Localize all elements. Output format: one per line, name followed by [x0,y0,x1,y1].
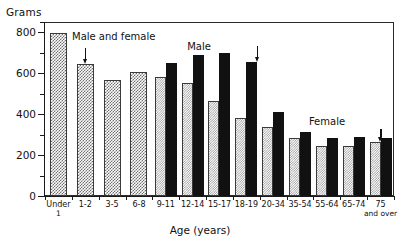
bar-female-55-64 [316,146,327,196]
x-axis-title: Age (years) [0,224,400,236]
x-tick-label-20-34: 20-34 [262,200,285,209]
annotation-label-male-and-female: Male and female [72,31,155,42]
y-tick-label-200: 200 [16,149,36,161]
y-tick-0 [38,196,44,197]
bar-group-65-74 [340,22,367,196]
x-tick-label-1-2: 1-2 [79,200,92,209]
bar-male-and-female-1-2 [77,64,94,196]
bar-group-75-and-over [367,22,394,196]
x-tick-4 [152,196,153,200]
bar-group-20-34 [260,22,287,196]
y-minor-tick-300 [40,135,44,136]
bar-female-12-14 [182,83,193,196]
x-tick-end [394,196,395,200]
y-minor-tick-500 [40,94,44,95]
bar-male-18-19 [246,62,257,196]
bar-group-35-54 [287,22,314,196]
y-tick-200 [38,155,44,156]
y-minor-tick-100 [40,176,44,177]
bar-male-75-and-over [381,138,392,196]
bar-male-55-64 [327,138,338,196]
bar-group-Under-1 [45,22,72,196]
x-tick-label-65-74: 65-74 [342,200,365,209]
x-tick-label-Under-1: Under1 [46,200,70,218]
x-tick-1 [72,196,73,200]
bar-male-9-11 [166,63,177,196]
bar-group-18-19 [233,22,260,196]
bar-male-15-17 [219,53,230,196]
bar-male-20-34 [273,112,284,196]
y-tick-800 [38,32,44,33]
x-tick-label-35-54: 35-54 [288,200,311,209]
x-tick-label-18-19: 18-19 [235,200,258,209]
bar-chart: Grams 0200400600800 Under11-23-56-89-111… [0,0,400,243]
x-tick-label-55-64: 55-64 [315,200,338,209]
y-tick-label-600: 600 [16,67,36,79]
x-tick-label-9-11: 9-11 [157,200,175,209]
bar-female-15-17 [208,101,219,196]
x-tick-label-15-17: 15-17 [208,200,231,209]
bar-group-9-11 [152,22,179,196]
y-tick-400 [38,114,44,115]
bar-male-12-14 [193,55,204,196]
bar-group-6-8 [126,22,153,196]
bar-female-75-and-over [370,142,381,196]
bars-layer [45,22,394,196]
y-minor-tick-700 [40,53,44,54]
bar-male-and-female-6-8 [130,72,147,196]
y-tick-label-0: 0 [29,190,36,202]
annotation-label-female: Female [309,116,345,127]
y-tick-label-800: 800 [16,26,36,38]
y-axis-title: Grams [6,6,42,18]
bar-female-20-34 [262,127,273,196]
x-tick-label-12-14: 12-14 [181,200,204,209]
y-tick-label-400: 400 [16,108,36,120]
bar-female-35-54 [289,138,300,196]
bar-female-9-11 [155,77,166,196]
annotation-label-male: Male [187,41,211,52]
x-axis-line [44,196,394,197]
bar-male-and-female-Under-1 [50,33,67,196]
bar-male-and-female-3-5 [104,80,121,196]
x-tick-2 [99,196,100,200]
x-tick-label-6-8: 6-8 [132,200,145,209]
bar-male-65-74 [354,137,365,196]
x-tick-label-3-5: 3-5 [106,200,119,209]
y-minor-tick-850 [40,22,44,23]
bar-group-3-5 [99,22,126,196]
bar-female-65-74 [343,146,354,196]
x-tick-label-75-and-over: 75and over [364,200,397,218]
y-tick-600 [38,73,44,74]
bar-female-18-19 [235,118,246,196]
x-tick-3 [126,196,127,200]
bar-group-55-64 [313,22,340,196]
bar-male-35-54 [300,132,311,196]
